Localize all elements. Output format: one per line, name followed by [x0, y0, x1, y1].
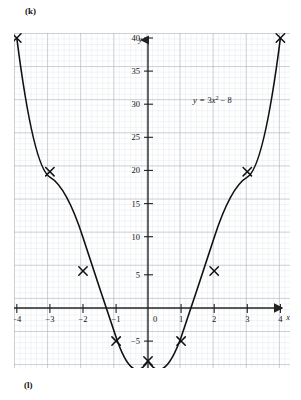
equation-exponent: 2: [216, 95, 219, 101]
quadratic-graph-svg: 40 35 30 25 20 15 10 5 −5 −10 −4 −3 −2 −…: [14, 33, 290, 368]
part-label-k: (k): [25, 6, 36, 16]
graph-page: (k): [0, 0, 301, 400]
equation-equals: =: [200, 95, 205, 105]
x-tick-label-2: 2: [212, 314, 216, 324]
y-tick-label-neg5: −5: [131, 336, 140, 346]
y-tick-label-35: 35: [132, 66, 141, 76]
x-tick-label-neg4: −4: [14, 314, 22, 324]
x-tick-label-neg3: −3: [45, 314, 54, 324]
y-tick-label-20: 20: [132, 165, 141, 175]
part-label-l: (l): [24, 380, 33, 390]
equation-lhs: y: [192, 95, 197, 105]
y-tick-label-10: 10: [132, 232, 141, 242]
equation-constant: 8: [227, 95, 231, 105]
y-tick-label-15: 15: [132, 199, 141, 209]
x-tick-label-0: 0: [153, 314, 157, 324]
y-tick-label-5: 5: [136, 270, 140, 280]
x-tick-label-3: 3: [245, 314, 249, 324]
equation-minus: −: [221, 95, 226, 105]
x-tick-label-neg2: −2: [78, 314, 87, 324]
y-axis-label: y: [137, 35, 142, 44]
x-tick-label-4: 4: [278, 314, 283, 324]
y-tick-label-25: 25: [132, 132, 141, 142]
y-tick-label-30: 30: [132, 99, 141, 109]
graph-plot-area: 40 35 30 25 20 15 10 5 −5 −10 −4 −3 −2 −…: [14, 33, 290, 368]
x-tick-label-1: 1: [179, 314, 183, 324]
x-axis-label: x: [285, 313, 290, 322]
x-tick-label-neg1: −1: [112, 314, 121, 324]
